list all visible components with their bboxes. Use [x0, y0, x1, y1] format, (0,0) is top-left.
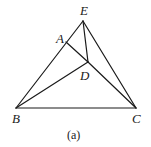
label-E: E	[79, 3, 88, 18]
segments	[16, 21, 136, 108]
label-C: C	[132, 111, 141, 126]
segment-AD	[66, 42, 88, 62]
segment-BE	[16, 21, 83, 108]
label-D: D	[79, 68, 90, 83]
geometry-figure: E A D B C (a)	[0, 0, 151, 147]
segment-BD	[16, 62, 88, 108]
figure-caption: (a)	[67, 128, 80, 142]
label-A: A	[55, 31, 64, 46]
label-B: B	[12, 111, 20, 126]
